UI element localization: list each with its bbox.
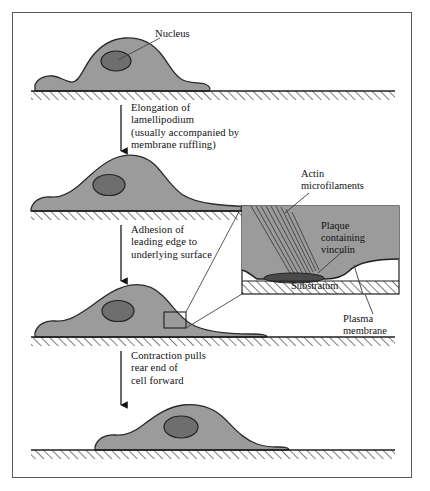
callout-line-bottom	[186, 294, 242, 328]
caption-step-2: Adhesion of leading edge to underlying s…	[131, 224, 212, 261]
nucleus-stage-1	[101, 51, 131, 71]
substratum-label: Substratum	[291, 280, 338, 291]
plasma-membrane-label: Plasma membrane	[343, 313, 387, 337]
caption-step-3: Contraction pulls rear end of cell forwa…	[131, 350, 206, 387]
substratum-line-1	[31, 91, 395, 100]
substratum-line-4	[31, 450, 395, 459]
plaque-vinculin-label: Plaque containing vinculin	[321, 220, 365, 256]
cell-stage-2	[31, 155, 281, 211]
nucleus-stage-2	[93, 175, 125, 196]
cell-stage-3	[35, 285, 267, 337]
nucleus-stage-4	[164, 416, 198, 438]
cell-stage-1	[35, 38, 210, 91]
cell-stage-4	[95, 405, 289, 450]
substratum-line-3	[31, 337, 395, 346]
caption-step-1: Elongation of lamellipodium (usually acc…	[131, 102, 239, 152]
plasma-membrane-leader-line	[365, 294, 373, 314]
nucleus-label: Nucleus	[155, 28, 190, 40]
nucleus-stage-3	[102, 301, 134, 322]
figure-frame: Nucleus Elongation of lamellipodium (usu…	[12, 12, 412, 478]
actin-microfilaments-label: Actin microfilaments	[301, 168, 364, 192]
